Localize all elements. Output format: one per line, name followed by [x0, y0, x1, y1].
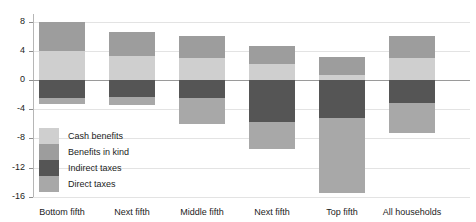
bar-segment[interactable]: [179, 80, 225, 98]
y-axis-tick: [29, 197, 33, 198]
y-axis-tick-label: 8: [0, 17, 25, 26]
bar-segment[interactable]: [389, 103, 435, 133]
bar-segment[interactable]: [179, 36, 225, 58]
bar-segment[interactable]: [109, 80, 155, 97]
x-axis-label: All households: [367, 207, 457, 217]
bar-segment[interactable]: [249, 64, 295, 80]
y-axis-tick-label: 4: [0, 46, 25, 55]
y-axis-line: [33, 14, 34, 197]
legend-label: Cash benefits: [68, 131, 123, 141]
bar-segment[interactable]: [319, 57, 365, 75]
bar-segment[interactable]: [109, 97, 155, 105]
bar-segment[interactable]: [179, 98, 225, 124]
legend-swatch: [39, 176, 59, 192]
y-axis-tick: [29, 109, 33, 110]
bar-segment[interactable]: [39, 80, 85, 98]
legend-label: Indirect taxes: [68, 163, 122, 173]
y-axis-tick: [29, 51, 33, 52]
bar-group[interactable]: [179, 0, 225, 222]
bar-group[interactable]: [249, 0, 295, 222]
y-axis-tick-label: -8: [0, 133, 25, 142]
legend-label: Benefits in kind: [68, 147, 129, 157]
y-axis-tick-label: -4: [0, 104, 25, 113]
y-axis-tick: [29, 168, 33, 169]
bar-group[interactable]: [319, 0, 365, 222]
bar-segment[interactable]: [249, 80, 295, 122]
bar-segment[interactable]: [319, 80, 365, 118]
y-axis-tick-label: 0: [0, 75, 25, 84]
bar-segment[interactable]: [389, 36, 435, 58]
bar-segment[interactable]: [109, 56, 155, 80]
bar-segment[interactable]: [249, 122, 295, 150]
y-axis-tick-label: -12: [0, 163, 25, 172]
bar-segment[interactable]: [249, 46, 295, 64]
legend-swatch: [39, 144, 59, 160]
legend-swatch: [39, 160, 59, 176]
bar-segment[interactable]: [319, 118, 365, 193]
bar-segment[interactable]: [39, 22, 85, 51]
bar-segment[interactable]: [389, 58, 435, 80]
legend-label: Direct taxes: [68, 179, 116, 189]
bar-segment[interactable]: [39, 98, 85, 104]
bar-segment[interactable]: [109, 32, 155, 56]
legend-swatch: [39, 128, 59, 144]
bar-segment[interactable]: [179, 58, 225, 80]
bar-group[interactable]: [389, 0, 435, 222]
y-axis-tick: [29, 138, 33, 139]
y-axis-tick-label: -16: [0, 192, 25, 201]
y-axis-tick: [29, 22, 33, 23]
bar-segment[interactable]: [389, 80, 435, 103]
bar-segment[interactable]: [39, 51, 85, 80]
stacked-bar-chart: 840-4-8-12-16 Bottom fifthNext fifthMidd…: [0, 0, 476, 222]
